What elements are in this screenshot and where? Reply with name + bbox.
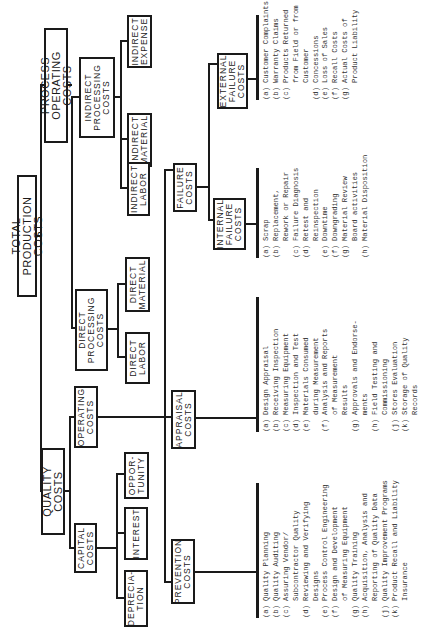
list-item: (h)Field Testing and Commissioning (371, 320, 391, 432)
list-item: (j)Quality Improvement Programs (381, 480, 391, 618)
list-item: (a)Scrap (262, 155, 272, 258)
connector (164, 417, 171, 419)
list-item: (e)Process Control Engineering (321, 480, 331, 618)
node-opportunity: OPPOR- TUNITY (124, 452, 149, 499)
list-bracket-prevention (256, 483, 259, 618)
list-item: (b)Receiving Inspection (272, 320, 282, 432)
node-failure-costs: FAILURE COSTS (173, 163, 197, 212)
list-item: (c)Assuring Vendor/ Subcontractor Qualit… (282, 480, 302, 618)
list-item: (e)Loss of Sales (321, 1, 331, 100)
list-item: (g)Quality Training (351, 480, 361, 618)
node-direct-processing-costs: DIRECT PROCESSING COSTS (75, 289, 108, 371)
node-prevention-costs: PREVENTION COSTS (171, 539, 195, 604)
node-total-production-costs: TOTAL PRODUCTION COSTS (17, 175, 37, 297)
connector (117, 284, 119, 358)
connector (116, 474, 124, 476)
connector (40, 85, 42, 492)
list-item: (a)Design Appraisal (262, 320, 272, 432)
list-bracket-external-failure (256, 15, 259, 100)
connector (208, 64, 217, 66)
connector (120, 41, 122, 189)
node-indirect-processing-costs: INDIRECT PROCESSING COSTS (79, 57, 115, 138)
node-indirect-labor: INDIRECT LABOR (127, 162, 150, 216)
list-item: (g)Approvals and Endorse- ments (351, 320, 371, 432)
node-indirect-expense: INDIRECT EXPENSE (127, 15, 152, 68)
connector (208, 64, 210, 221)
connector (164, 170, 173, 172)
node-indirect-material: INDIRECT MATERIAL (127, 113, 152, 167)
list-item: (d)Retest and Reinspection (302, 155, 322, 258)
internal-failure-costs-list: (a)Scrap (b)Replacement, Rework or Repai… (262, 155, 371, 258)
connector (98, 417, 165, 419)
connector (117, 284, 125, 286)
connector (120, 41, 127, 43)
list-item: (d)Concessions (312, 1, 322, 100)
node-operating-costs: OPERATING COSTS (74, 386, 98, 448)
node-depreciation: DEPRECIA- TION (124, 570, 148, 627)
list-item: (g)Material Review Board activities (341, 155, 361, 258)
connector (68, 85, 72, 87)
list-item: (a)Customer Complaints (262, 1, 272, 100)
connector (195, 572, 257, 574)
list-item: (h)Material Disposition (361, 155, 371, 258)
list-item: (c)Measuring Equipment (282, 320, 292, 432)
node-internal-failure-costs: INTERNAL FAILURE COSTS (213, 198, 246, 250)
list-bracket-internal-failure (256, 168, 259, 258)
list-item: (e)Materials Consumed during Measurement (302, 320, 322, 432)
list-item: (k)Storage of Quality Records (401, 320, 421, 432)
node-quality-costs: QUALITY COSTS (41, 448, 65, 535)
connector (116, 533, 124, 535)
list-item: (b)Replacement, Rework or Repair (272, 155, 292, 258)
connector (97, 548, 117, 550)
node-direct-labor: DIRECT LABOR (125, 332, 150, 384)
node-appraisal-costs: APPRAISAL COSTS (171, 390, 196, 449)
list-item: (f)Downgrading (331, 155, 341, 258)
node-capital-costs: CAPITAL COSTS (74, 523, 97, 573)
connector (116, 474, 118, 599)
connector (164, 170, 166, 583)
list-item: (k)Product Recall and Liability Insuranc… (391, 480, 411, 618)
list-item: (c)Products Returned from Field or from … (282, 1, 312, 100)
connector (196, 418, 257, 420)
prevention-costs-list: (a)Quality Planning (b)Quality Auditing … (262, 480, 411, 618)
node-external-failure-costs: EXTERNAL FAILURE COSTS (217, 53, 248, 109)
list-item: (e)Downtime (321, 155, 331, 258)
list-item: (d)Inspection and Test (292, 320, 302, 432)
list-item: (a)Quality Planning (262, 480, 272, 618)
connector (71, 97, 79, 99)
connector (164, 582, 171, 584)
node-direct-material: DIRECT MATERIAL (125, 257, 150, 312)
connector (71, 97, 73, 329)
connector (116, 598, 124, 600)
list-item: (c)Failure Diagnosis (292, 155, 302, 258)
list-item: (f)Recall Costs (331, 1, 341, 100)
list-item: (b)Warranty Claims (272, 1, 282, 100)
list-item: (g)Actual Costs of Product Liability (341, 1, 361, 100)
cost-tree-diagram: TOTAL PRODUCTION COSTS PROCESS OPERATING… (0, 0, 440, 629)
external-failure-costs-list: (a)Customer Complaints (b)Warranty Claim… (262, 1, 361, 100)
connector (117, 357, 125, 359)
list-item: (b)Quality Auditing (272, 480, 282, 618)
node-interest: INTEREST (124, 507, 148, 560)
list-bracket-appraisal (256, 297, 259, 432)
connector (120, 139, 127, 141)
appraisal-costs-list: (a)Design Appraisal (b)Receiving Inspect… (262, 320, 421, 432)
list-item: (f)Analysis and Reports of Measurement R… (321, 320, 351, 432)
connector (69, 417, 71, 549)
list-item: (d)Reviewing and Verifying Designs (302, 480, 322, 618)
list-item: (j)Stores Evaluation (391, 320, 401, 432)
list-item: (f)Design and Development of Measuring E… (331, 480, 351, 618)
connector (120, 188, 127, 190)
list-item: (h)Acquisition, Analysis and Reporting o… (361, 480, 381, 618)
node-process-operating-costs: PROCESS OPERATING COSTS (44, 28, 68, 143)
